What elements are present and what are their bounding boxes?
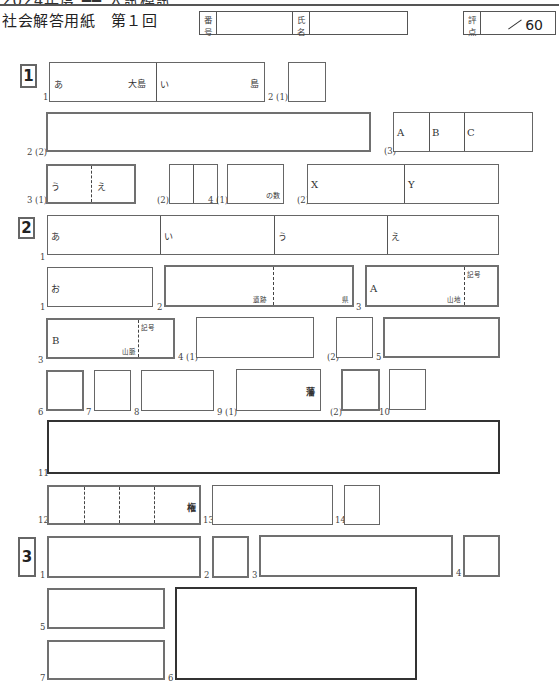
answer-1-3-1[interactable]: う え	[46, 164, 136, 204]
cell-suffix: の数	[266, 190, 280, 200]
answer-2-5[interactable]	[383, 317, 500, 358]
cell-label: あ	[54, 78, 63, 91]
cell-suffix: 大島	[128, 77, 146, 90]
cell-suffix: 藩	[306, 385, 315, 398]
answer-2-9-1[interactable]: 藩	[236, 369, 321, 411]
student-number-field[interactable]	[217, 12, 293, 34]
name-label: 氏名	[293, 12, 310, 34]
cell-divider	[156, 63, 157, 101]
answer-1-4-1[interactable]: の数	[227, 164, 284, 204]
code-label: 記号	[467, 269, 481, 279]
q-number: 2 (2)	[27, 147, 47, 157]
answer-3-1[interactable]	[47, 536, 201, 578]
dashed-divider	[91, 166, 92, 202]
cell-label: え	[97, 180, 106, 193]
cell-divider	[193, 165, 194, 203]
answer-2-3-b[interactable]: B 山脈 記号	[46, 318, 175, 359]
cell-divider	[429, 113, 430, 151]
q-number: 7	[40, 673, 45, 683]
dashed-divider	[84, 487, 85, 523]
answer-2-14[interactable]	[344, 485, 380, 525]
cell-label: A	[397, 127, 404, 138]
cell-label: C	[467, 127, 475, 138]
q-number: 9 (1)	[217, 407, 237, 417]
cell-suffix: 県	[342, 294, 349, 304]
cell-label: え	[391, 230, 400, 243]
answer-2-3-a[interactable]: A 山地 記号	[365, 265, 499, 307]
slash-icon	[508, 20, 522, 30]
answer-3-3[interactable]	[259, 535, 453, 577]
student-name-field[interactable]	[310, 12, 407, 34]
q-number: 2	[157, 302, 162, 312]
cell-suffix: 山脈	[122, 346, 136, 356]
cell-divider	[274, 216, 275, 254]
q-number: 1	[40, 570, 45, 580]
cell-label: X	[311, 179, 318, 190]
cell-label: う	[51, 180, 60, 193]
score-box: 評点 60	[463, 11, 556, 35]
answer-3-2[interactable]	[212, 536, 249, 578]
answer-2-2[interactable]: 遺跡 県	[164, 265, 354, 307]
answer-3-7[interactable]	[47, 640, 165, 680]
answer-3-5[interactable]	[47, 588, 165, 629]
answer-1-2-3[interactable]: A B C	[393, 112, 533, 152]
q-number: 2 (1)	[268, 92, 288, 102]
student-info-box: 番号 氏名	[199, 11, 408, 35]
q-number: (2)	[157, 195, 169, 205]
answer-2-13[interactable]	[212, 485, 333, 525]
number-label: 番号	[200, 12, 217, 34]
answer-2-1[interactable]: あ い う え	[47, 215, 499, 255]
q-number: 1	[43, 92, 48, 102]
answer-2-1-o[interactable]: お	[47, 267, 153, 307]
answer-2-8[interactable]	[141, 370, 214, 411]
q-number: 4 (1)	[208, 195, 228, 205]
answer-1-1[interactable]: あ 大島 い 島	[49, 62, 265, 102]
cell-label: B	[432, 127, 439, 138]
cell-label: い	[164, 230, 173, 243]
answer-3-4[interactable]	[463, 535, 500, 577]
q-number: 2	[204, 570, 209, 580]
header-rule	[0, 4, 559, 6]
section-3-badge: 3	[18, 537, 36, 577]
cell-suffix: 遺跡	[253, 294, 267, 304]
answer-2-4-2[interactable]	[336, 317, 373, 358]
answer-1-2-1[interactable]	[288, 62, 326, 102]
answer-2-11[interactable]	[47, 420, 500, 474]
q-number: 6	[38, 407, 43, 417]
code-label: 記号	[141, 322, 155, 332]
page-title: 社会解答用紙 第１回	[2, 9, 157, 30]
answer-3-6[interactable]	[175, 587, 417, 680]
answer-2-12[interactable]: 権	[47, 485, 201, 525]
cell-divider	[387, 216, 388, 254]
score-field[interactable]: 60	[481, 12, 555, 34]
dashed-divider	[119, 487, 120, 523]
answer-2-9-2[interactable]	[341, 369, 380, 411]
cell-suffix: 山地	[447, 294, 461, 304]
score-label: 評点	[464, 12, 481, 34]
answer-2-6[interactable]	[46, 370, 84, 411]
cell-divider	[160, 216, 161, 254]
answer-2-10[interactable]	[389, 369, 426, 410]
q-number: 5	[40, 622, 45, 632]
cell-divider	[404, 165, 405, 203]
cell-label: A	[370, 283, 377, 294]
cell-label: い	[160, 78, 169, 91]
cell-suffix: 島	[250, 77, 259, 90]
answer-1-4-2[interactable]: X Y	[307, 164, 499, 204]
cell-label: B	[52, 335, 59, 346]
dashed-divider	[273, 267, 274, 305]
answer-1-2-2[interactable]	[46, 112, 371, 152]
section-2-badge: 2	[18, 217, 35, 239]
cell-divider	[464, 113, 465, 151]
answer-2-4-1[interactable]	[196, 317, 314, 358]
q-number: 8	[134, 407, 139, 417]
section-1-badge: 1	[20, 64, 37, 88]
q-number: 5	[376, 352, 381, 362]
cell-label: あ	[51, 230, 60, 243]
answer-2-7[interactable]	[94, 370, 131, 411]
q-number: 3	[356, 302, 361, 312]
score-max: 60	[507, 17, 543, 33]
dashed-divider	[138, 320, 139, 357]
q-number: 1	[40, 252, 45, 262]
cell-label: う	[278, 230, 287, 243]
